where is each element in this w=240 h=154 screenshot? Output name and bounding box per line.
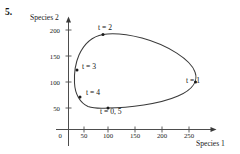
y-axis-arrowhead-icon: [66, 17, 71, 23]
data-point-t3: [76, 69, 79, 72]
plot-canvas: [0, 0, 240, 154]
data-point-t0-t5: [107, 107, 110, 110]
x-axis-arrowhead-icon: [211, 127, 217, 132]
phase-trajectory-curve: [74, 34, 196, 108]
data-point-t1: [194, 81, 197, 84]
phase-plane-figure: 5. Species 2 Species 1 200 150 100 50 0 …: [0, 0, 240, 154]
data-point-t4: [79, 96, 82, 99]
data-point-t2: [102, 33, 105, 36]
